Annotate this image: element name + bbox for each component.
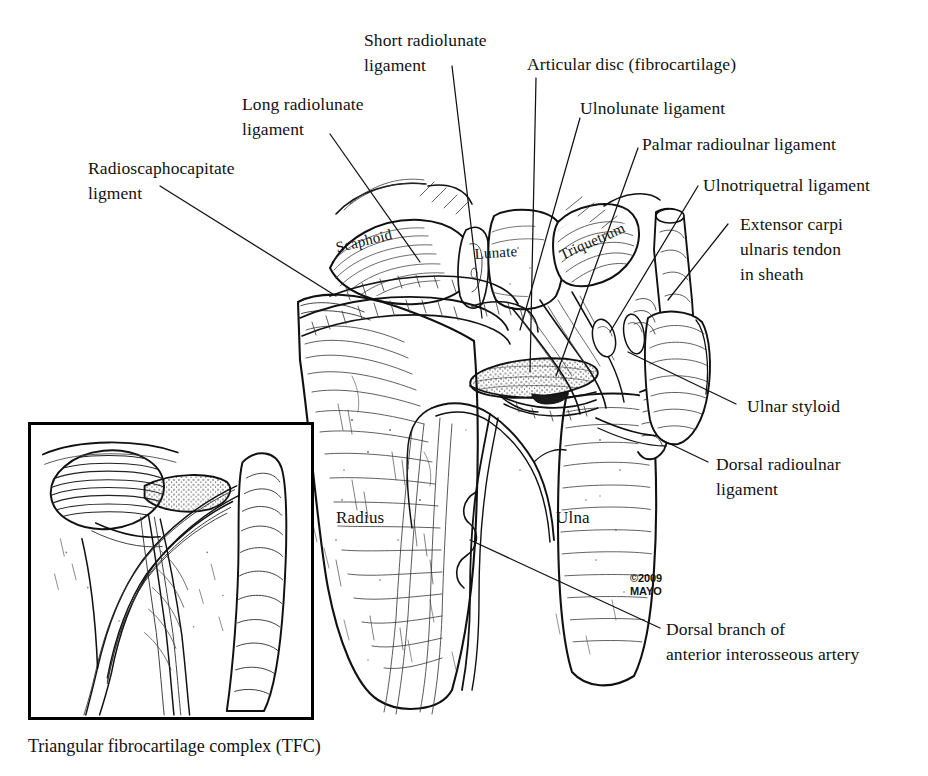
bone-label-lunate: Lunate <box>474 243 518 263</box>
anatomical-figure: Short radiolunate ligament Long radiolun… <box>0 0 928 776</box>
scaphoid-bone <box>330 220 474 304</box>
label-long-radiolunate-ligament: Long radiolunate ligament <box>242 92 364 142</box>
inset-artwork <box>31 425 311 717</box>
ulna-bone <box>558 389 670 685</box>
label-radioscaphocapitate-ligament: Radioscaphocapitate ligment <box>88 156 235 206</box>
label-ulnotriquetral-ligament: Ulnotriquetral ligament <box>703 173 870 198</box>
copyright-notice: ©2009 MAYO <box>630 572 662 597</box>
label-short-radiolunate-ligament: Short radiolunate ligament <box>364 28 487 78</box>
radius-bone <box>298 295 478 709</box>
label-articular-disc: Articular disc (fibrocartilage) <box>527 52 736 77</box>
label-extensor-carpi-ulnaris-tendon: Extensor carpi ulnaris tendon in sheath <box>740 212 843 287</box>
label-ulnar-styloid: Ulnar styloid <box>747 394 840 419</box>
scapholunate-interval <box>458 227 489 308</box>
figure-caption: Triangular fibrocartilage complex (TFC) <box>28 736 321 757</box>
coronal-section-inset <box>28 422 314 720</box>
extensor-carpi-ulnaris-tendon <box>645 209 710 445</box>
bone-label-ulna: Ulna <box>556 508 590 528</box>
label-palmar-radioulnar-ligament: Palmar radioulnar ligament <box>642 132 836 157</box>
bone-label-radius: Radius <box>336 508 384 528</box>
label-dorsal-branch-artery: Dorsal branch of anterior interosseous a… <box>666 617 859 667</box>
label-ulnolunate-ligament: Ulnolunate ligament <box>580 96 725 121</box>
label-dorsal-radioulnar-ligament: Dorsal radioulnar ligament <box>716 452 841 502</box>
